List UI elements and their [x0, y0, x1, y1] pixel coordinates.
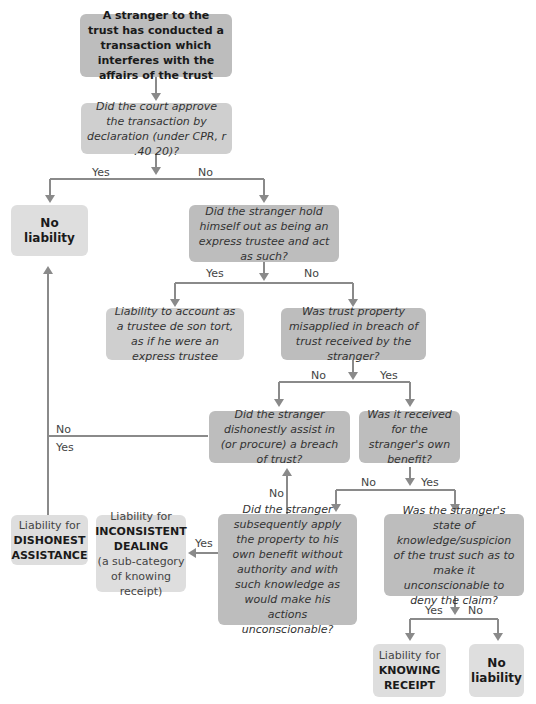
label-yes: Yes [206, 267, 224, 280]
label-yes: Yes [421, 476, 439, 489]
question-text: Was trust property misapplied in breach … [287, 304, 420, 364]
label-yes: Yes [195, 537, 213, 550]
outcome-text: No liability [471, 656, 522, 686]
label-yes: Yes [92, 166, 110, 179]
question-property-received: Was trust property misapplied in breach … [281, 308, 426, 360]
label-yes: Yes [56, 441, 74, 454]
question-own-benefit: Was it received for the stranger's own b… [359, 411, 460, 463]
label-no: No [269, 487, 284, 500]
question-court-approval: Did the court approve the transaction by… [81, 103, 232, 154]
question-text: Did the stranger hold himself out as bei… [195, 204, 333, 264]
question-held-out-as-trustee: Did the stranger hold himself out as bei… [189, 205, 339, 262]
outcome-text: Liability to account as a trustee de son… [112, 304, 238, 364]
question-text: Was the stranger's state of knowledge/su… [390, 503, 518, 608]
label-no: No [311, 369, 326, 382]
question-text: Did the stranger subsequently apply the … [224, 502, 351, 637]
outcome-title: KNOWING RECEIPT [379, 663, 441, 693]
outcome-inconsistent-dealing: Liability for INCONSISTENT DEALING (a su… [96, 515, 186, 592]
outcome-knowing-receipt: Liability for KNOWING RECEIPT [373, 644, 446, 697]
outcome-prefix: Liability for [379, 648, 441, 663]
question-applied-to-own-benefit: Did the stranger subsequently apply the … [218, 514, 357, 625]
start-text: A stranger to the trust has conducted a … [86, 8, 226, 83]
question-text: Did the court approve the transaction by… [87, 99, 226, 159]
label-yes: Yes [380, 369, 398, 382]
label-yes: Yes [425, 604, 443, 617]
outcome-text: No liability [17, 216, 82, 246]
start-box: A stranger to the trust has conducted a … [80, 14, 232, 77]
outcome-no-liability-2: No liability [469, 644, 524, 697]
outcome-title: DISHONEST ASSISTANCE [12, 533, 88, 563]
outcome-note: (a sub-category of knowing receipt) [95, 554, 187, 599]
question-knowledge-unconscionable: Was the stranger's state of knowledge/su… [384, 514, 524, 596]
label-no: No [56, 423, 71, 436]
outcome-prefix: Liability for [95, 509, 187, 524]
outcome-prefix: Liability for [12, 518, 88, 533]
label-no: No [198, 166, 213, 179]
outcome-title: INCONSISTENT DEALING [95, 524, 187, 554]
outcome-trustee-de-son-tort: Liability to account as a trustee de son… [106, 308, 244, 360]
question-text: Did the stranger dishonestly assist in (… [215, 407, 344, 467]
question-dishonest-assistance: Did the stranger dishonestly assist in (… [209, 411, 350, 463]
outcome-no-liability-1: No liability [11, 205, 88, 256]
question-text: Was it received for the stranger's own b… [365, 407, 454, 467]
label-no: No [468, 604, 483, 617]
label-no: No [361, 476, 376, 489]
outcome-dishonest-assistance: Liability for DISHONEST ASSISTANCE [11, 515, 88, 565]
label-no: No [304, 267, 319, 280]
